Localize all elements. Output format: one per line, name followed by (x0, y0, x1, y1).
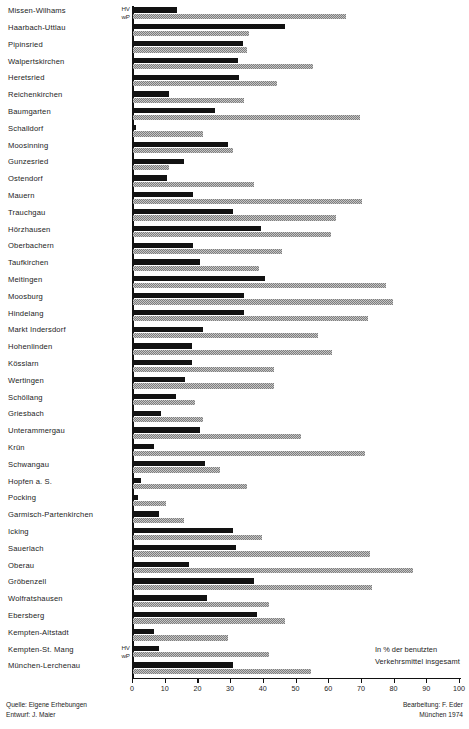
bar-wp (133, 199, 362, 204)
x-axis-tick-label: 50 (292, 684, 300, 693)
category-label: Kempten-Altstadt (8, 629, 69, 637)
bar-hv (133, 41, 243, 46)
bar-hv (133, 612, 257, 617)
category-label: Taufkirchen (8, 259, 48, 267)
bar-row (132, 392, 460, 409)
bar-hv (133, 411, 161, 416)
bar-hv (133, 511, 159, 516)
source-credit: Quelle: Eigene Erhebungen Entwurf: J. Ma… (6, 700, 87, 719)
bar-wp (133, 165, 169, 170)
category-label: Missen-Wilhams (8, 7, 66, 15)
category-label: Hopfen a. S. (8, 478, 52, 486)
plot-area (132, 6, 460, 678)
bar-row (132, 510, 460, 527)
x-axis-tick (230, 678, 231, 683)
bar-row (132, 258, 460, 275)
bar-row (132, 611, 460, 628)
bar-row (132, 308, 460, 325)
bar-hv (133, 327, 203, 332)
category-label: Icking (8, 528, 29, 536)
bar-hv (133, 427, 200, 432)
x-axis-tick-label: 10 (161, 684, 169, 693)
bar-wp (133, 535, 262, 540)
category-label: Oberau (8, 562, 34, 570)
series-tag-wp-bottom: wP (110, 653, 130, 660)
bar-row (132, 107, 460, 124)
bar-wp (133, 182, 254, 187)
bar-hv (133, 478, 141, 483)
bar-wp (133, 232, 331, 237)
bar-row (132, 325, 460, 342)
bar-wp (133, 484, 247, 489)
x-axis-tick-label: 70 (357, 684, 365, 693)
bar-wp (133, 131, 203, 136)
bar-wp (133, 115, 360, 120)
editor-line-1: Bearbeitung: F. Eder (403, 700, 463, 710)
bar-hv (133, 75, 239, 80)
bar-hv (133, 276, 265, 281)
bar-rows (132, 6, 460, 678)
bar-hv (133, 528, 233, 533)
bar-hv (133, 175, 167, 180)
bar-row (132, 627, 460, 644)
series-tag-wp-top: wP (110, 14, 130, 21)
category-label: Schöllang (8, 394, 43, 402)
category-label: Trauchgau (8, 209, 45, 217)
bar-hv (133, 310, 244, 315)
x-axis-tick-label: 40 (259, 684, 267, 693)
editor-line-2: München 1974 (403, 710, 463, 720)
category-label: Krün (8, 444, 25, 452)
bar-wp (133, 333, 318, 338)
category-label: Reichenkirchen (8, 91, 62, 99)
bar-wp (133, 81, 277, 86)
bar-hv (133, 343, 192, 348)
bar-row (132, 426, 460, 443)
source-line-2: Entwurf: J. Maier (6, 710, 87, 720)
bar-wp (133, 383, 274, 388)
x-axis-tick-label: 30 (226, 684, 234, 693)
bar-row (132, 241, 460, 258)
category-label: Heretsried (8, 74, 45, 82)
bar-row (132, 342, 460, 359)
bar-wp (133, 518, 184, 523)
bar-hv (133, 192, 193, 197)
category-label: Gröbenzell (8, 578, 46, 586)
category-label: Kösslarn (8, 360, 39, 368)
bar-hv (133, 394, 176, 399)
bar-row (132, 157, 460, 174)
bar-row (132, 6, 460, 23)
bar-wp (133, 652, 269, 657)
category-label: Walpertskirchen (8, 58, 64, 66)
category-label: Haarbach-Uttlau (8, 24, 66, 32)
bar-hv (133, 360, 192, 365)
bar-wp (133, 400, 195, 405)
category-label: Wolfratshausen (8, 595, 63, 603)
bar-row (132, 174, 460, 191)
x-axis-tick (296, 678, 297, 683)
bar-hv (133, 142, 228, 147)
category-label: Schalldorf (8, 125, 43, 133)
bar-row (132, 73, 460, 90)
category-label: Markt Indersdorf (8, 326, 66, 334)
bar-row (132, 275, 460, 292)
bar-row (132, 292, 460, 309)
bar-hv (133, 91, 169, 96)
bar-row (132, 493, 460, 510)
x-axis-tick-label: 100 (453, 684, 465, 693)
bar-hv (133, 108, 215, 113)
bar-hv (133, 259, 200, 264)
bar-row (132, 460, 460, 477)
category-label: München-Lerchenau (8, 662, 80, 670)
bar-wp (133, 266, 259, 271)
bar-wp (133, 568, 413, 573)
bar-wp (133, 618, 285, 623)
bar-row (132, 594, 460, 611)
annotation-line-1: In % der benutzten (375, 644, 460, 656)
bar-row (132, 140, 460, 157)
bar-row (132, 224, 460, 241)
x-axis-tick-label: 80 (390, 684, 398, 693)
category-label: Ostendorf (8, 175, 43, 183)
bar-wp (133, 148, 233, 153)
bar-row (132, 376, 460, 393)
category-label: Wertingen (8, 377, 44, 385)
